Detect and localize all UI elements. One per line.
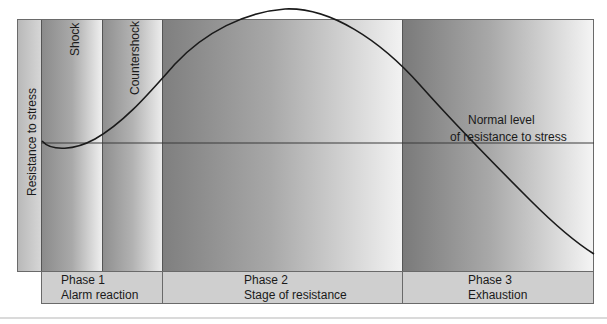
phase-2-number: Phase 2: [244, 273, 402, 288]
phase-1-name: Alarm reaction: [61, 288, 162, 303]
normal-level-label-line1: Normal level: [450, 112, 567, 129]
normal-level-label-line2: of resistance to stress: [450, 129, 567, 146]
phase-2-name: Stage of resistance: [244, 288, 402, 303]
phase-3-name: Exhaustion: [468, 288, 595, 303]
phase-1-cell: Phase 1 Alarm reaction: [42, 272, 163, 303]
bottom-divider: [0, 317, 607, 319]
phase-row: Phase 1 Alarm reaction Phase 2 Stage of …: [41, 272, 594, 304]
phase-2-cell: Phase 2 Stage of resistance: [163, 272, 403, 303]
phase-1-number: Phase 1: [61, 273, 162, 288]
phase-3-cell: Phase 3 Exhaustion: [403, 272, 595, 303]
normal-level-label: Normal level of resistance to stress: [450, 112, 567, 146]
phase-3-number: Phase 3: [468, 273, 595, 288]
